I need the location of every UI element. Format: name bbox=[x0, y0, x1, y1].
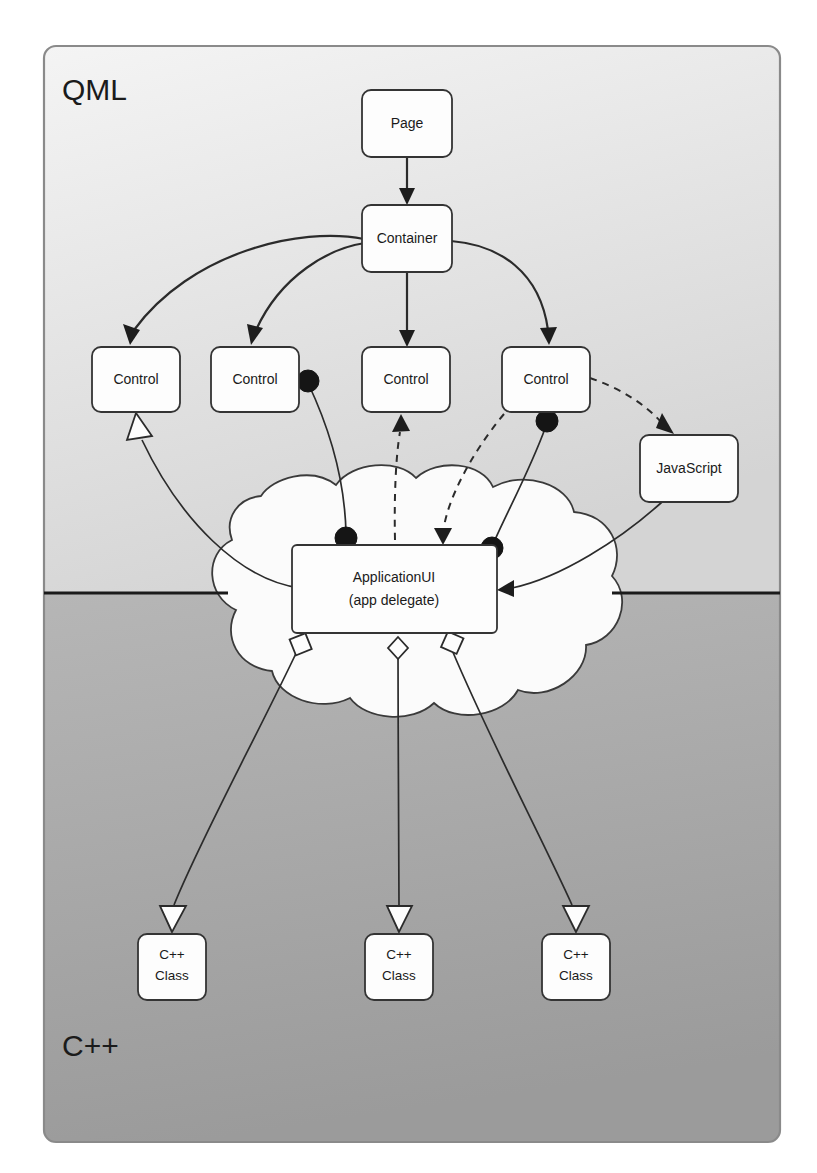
node-cpp-class-1[interactable]: C++ Class bbox=[138, 934, 206, 1000]
diagram-stage: QML C++ bbox=[0, 0, 817, 1173]
node-control-1[interactable]: Control bbox=[92, 347, 180, 412]
node-cpp-class-1-label: C++ bbox=[159, 947, 185, 962]
node-application-ui-label: ApplicationUI bbox=[353, 569, 436, 585]
node-control-3[interactable]: Control bbox=[362, 347, 450, 412]
qml-layer-label: QML bbox=[62, 73, 127, 106]
node-application-ui-box[interactable] bbox=[292, 545, 497, 633]
node-cpp-class-1-sublabel: Class bbox=[155, 968, 189, 983]
node-cpp-class-3-label: C++ bbox=[563, 947, 589, 962]
node-cpp-class-3[interactable]: C++ Class bbox=[542, 934, 610, 1000]
node-control-4-label: Control bbox=[523, 371, 568, 387]
node-control-3-label: Control bbox=[383, 371, 428, 387]
node-page[interactable]: Page bbox=[362, 90, 452, 157]
node-control-2-label: Control bbox=[232, 371, 277, 387]
node-cpp-class-2-label: C++ bbox=[386, 947, 412, 962]
solid-dot-control2 bbox=[297, 370, 319, 392]
cpp-layer-label: C++ bbox=[62, 1029, 119, 1062]
node-application-ui[interactable]: ApplicationUI (app delegate) bbox=[292, 545, 497, 633]
node-cpp-class-2[interactable]: C++ Class bbox=[365, 934, 433, 1000]
node-control-1-label: Control bbox=[113, 371, 158, 387]
architecture-diagram: QML C++ bbox=[0, 0, 817, 1173]
node-application-ui-sublabel: (app delegate) bbox=[349, 592, 439, 608]
node-container-label: Container bbox=[377, 230, 438, 246]
node-container[interactable]: Container bbox=[362, 205, 452, 272]
node-control-2[interactable]: Control bbox=[211, 347, 299, 412]
node-control-4[interactable]: Control bbox=[502, 347, 590, 412]
node-javascript-label: JavaScript bbox=[656, 460, 721, 476]
solid-dot-control4 bbox=[536, 410, 558, 432]
node-cpp-class-2-sublabel: Class bbox=[382, 968, 416, 983]
node-page-label: Page bbox=[391, 115, 424, 131]
node-javascript[interactable]: JavaScript bbox=[640, 435, 738, 502]
node-cpp-class-3-sublabel: Class bbox=[559, 968, 593, 983]
